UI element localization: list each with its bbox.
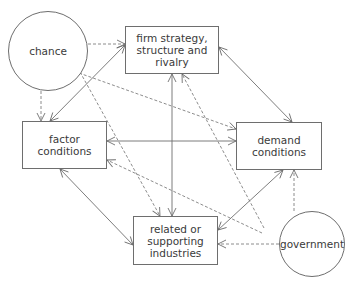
node-chance: chance — [8, 11, 88, 91]
node-government-label: government — [280, 238, 344, 250]
node-factor-conditions-label: factor conditions — [37, 133, 91, 157]
edge-firm-demand — [219, 47, 292, 122]
node-related-industries: related or supporting industries — [133, 216, 218, 265]
node-chance-label: chance — [29, 45, 67, 57]
node-related-industries-label: related or supporting industries — [147, 223, 204, 259]
node-government: government — [279, 211, 345, 277]
node-firm-strategy: firm strategy, structure and rivalry — [125, 26, 219, 74]
node-firm-strategy-label: firm strategy, structure and rivalry — [136, 32, 207, 68]
node-demand-conditions-label: demand conditions — [252, 134, 306, 158]
node-factor-conditions: factor conditions — [22, 121, 107, 169]
node-demand-conditions: demand conditions — [236, 122, 322, 170]
edge-factor-related — [60, 169, 133, 245]
edge-demand-related — [218, 170, 283, 230]
